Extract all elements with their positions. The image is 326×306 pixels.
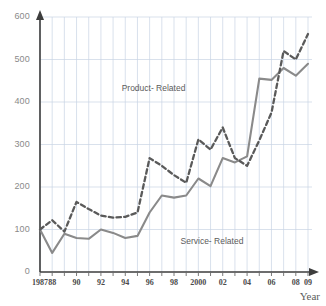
x-axis-title: Year	[300, 290, 320, 302]
line-chart: 0100200300400500600 19878890929496982000…	[0, 0, 326, 306]
y-axis-tick-label: 600	[6, 11, 30, 21]
annotation-product-related: Product- Related	[122, 83, 186, 93]
x-axis-tick-label: 98	[170, 278, 178, 287]
x-axis-tick-label: 2000	[190, 278, 206, 287]
x-axis-tick-label: 1987	[32, 278, 48, 287]
annotation-service-related: Service- Related	[181, 236, 244, 246]
x-axis-tick-label: 90	[73, 278, 81, 287]
x-axis-tick-label: 09	[304, 278, 312, 287]
y-axis-tick-label: 400	[6, 96, 30, 106]
x-axis-tick-label: 96	[146, 278, 154, 287]
y-axis-tick-label: 300	[6, 139, 30, 149]
x-axis-tick-label: 88	[48, 278, 56, 287]
x-axis-tick-label: 92	[97, 278, 105, 287]
chart-plot-area	[0, 0, 326, 306]
y-axis-tick-label: 100	[6, 224, 30, 234]
y-axis-tick-label: 200	[6, 181, 30, 191]
axis-lines	[36, 10, 319, 276]
x-axis-tick-label: 04	[243, 278, 251, 287]
y-axis-arrow-icon	[36, 10, 44, 20]
x-axis-tick-label: 02	[219, 278, 227, 287]
x-axis-arrow-icon	[309, 268, 319, 276]
x-axis-tick-label: 08	[292, 278, 300, 287]
y-axis-tick-label: 500	[6, 54, 30, 64]
x-axis-tick-label: 94	[121, 278, 129, 287]
y-axis-tick-label: 0	[6, 266, 30, 276]
x-axis-tick-label: 06	[267, 278, 275, 287]
